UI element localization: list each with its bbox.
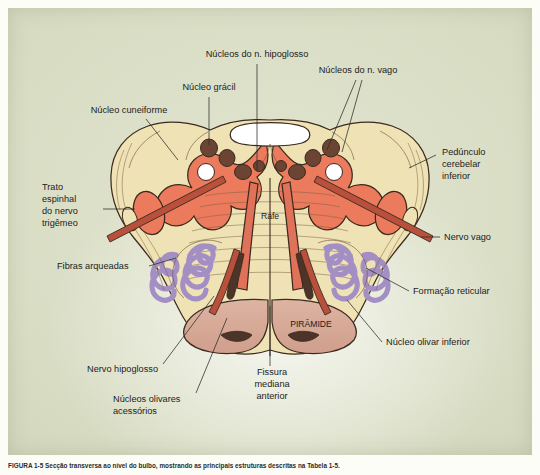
callout-nucleo-olivar-inferior: Núcleo olivar inferior bbox=[386, 337, 470, 347]
figure-root: Rafe PIRÂMIDE Núcleos do n. hipoglosso N… bbox=[0, 0, 540, 475]
callout-nucleos-vago: Núcleos do n. vago bbox=[319, 65, 398, 75]
callout-nervo-hipoglosso: Nervo hipoglosso bbox=[87, 364, 158, 374]
callout-line: mediana bbox=[254, 379, 290, 389]
callout-formacao-reticular: Formação reticular bbox=[413, 286, 490, 296]
callout-trato-espinhal-trigemeo: Trato espinhal do nervo trigêmeo bbox=[42, 182, 78, 228]
figure-caption-number: FIGURA 1-5 bbox=[8, 462, 43, 469]
nucleus-dot-vagus-left bbox=[219, 150, 235, 167]
callout-line: trigêmeo bbox=[42, 218, 78, 228]
callout-line: Fissura bbox=[257, 367, 288, 377]
inner-label-piramide: PIRÂMIDE bbox=[290, 319, 332, 329]
callout-fissura-mediana-anterior: Fissura mediana anterior bbox=[254, 367, 290, 401]
figure-caption: FIGURA 1-5 Secção transversa ao nível do… bbox=[8, 462, 532, 470]
callout-nucleos-olivares-acessorios: Núcleos olivares acessórios bbox=[113, 394, 181, 416]
callout-pedunculo-cerebelar-inferior: Pedúnculo cerebelar inferior bbox=[442, 147, 485, 181]
nucleus-dot-hypoglossal-right bbox=[323, 139, 340, 157]
figure-caption-text: Secção transversa ao nível do bulbo, mos… bbox=[45, 462, 340, 469]
callout-fibras-arqueadas: Fibras arqueadas bbox=[57, 261, 129, 271]
callout-nucleo-cuneiforme: Núcleo cuneiforme bbox=[91, 105, 168, 115]
nucleus-dot-small-left bbox=[254, 161, 265, 172]
callout-line: cerebelar bbox=[442, 159, 480, 169]
callout-line: Pedúnculo bbox=[442, 147, 485, 157]
callout-line: Núcleos olivares bbox=[113, 394, 181, 404]
fourth-ventricle bbox=[230, 123, 310, 147]
callout-nervo-vago: Nervo vago bbox=[444, 232, 491, 242]
callout-nucleos-hipoglosso: Núcleos do n. hipoglosso bbox=[206, 49, 309, 59]
nucleus-dot-solitary-left bbox=[235, 165, 252, 180]
medulla-cross-section-diagram: Rafe PIRÂMIDE Núcleos do n. hipoglosso N… bbox=[0, 0, 540, 475]
white-hole-left bbox=[198, 164, 215, 181]
callout-nucleo-gracil: Núcleo grácil bbox=[182, 82, 235, 92]
callout-line: Trato bbox=[42, 182, 63, 192]
callout-line: do nervo bbox=[42, 206, 78, 216]
callout-line: acessórios bbox=[113, 406, 157, 416]
white-hole-right bbox=[326, 164, 343, 181]
nucleus-dot-small-right bbox=[276, 161, 287, 172]
inner-label-rafe: Rafe bbox=[261, 211, 279, 221]
nucleus-dot-solitary-right bbox=[289, 165, 306, 180]
callout-line: inferior bbox=[442, 171, 470, 181]
nucleus-dot-vagus-right bbox=[305, 150, 321, 167]
callout-line: anterior bbox=[256, 391, 287, 401]
callout-line: espinhal bbox=[42, 194, 76, 204]
